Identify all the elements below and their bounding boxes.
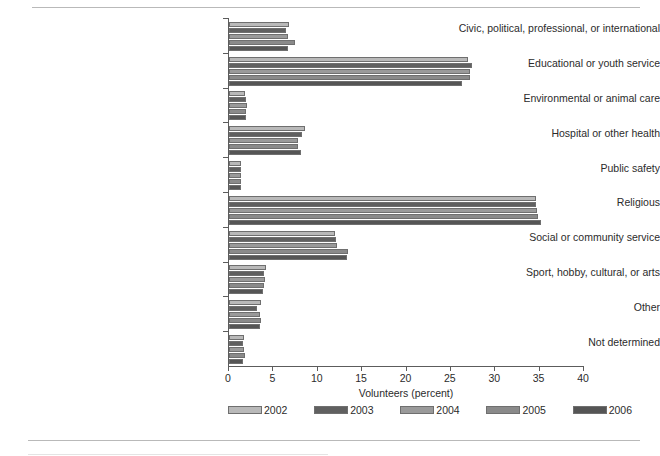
bar-2002 [229,335,244,340]
y-axis-tick [223,192,228,193]
chart-category-row: Environmental or animal care [0,88,660,123]
bar-group [229,335,245,364]
bar-2006 [229,115,246,120]
bar-2005 [229,283,264,288]
bar-2006 [229,324,260,329]
category-label: Other [442,301,660,313]
bar-group [229,91,247,120]
bar-2003 [229,341,243,346]
x-axis-tick [361,366,362,371]
y-axis-tick [223,122,228,123]
x-axis-tick [272,366,273,371]
x-axis-tick [494,366,495,371]
y-axis-tick [223,18,228,19]
bottom-divider-rule [28,440,640,441]
category-label: Civic, political, professional, or inter… [442,22,660,34]
category-label: Public safety [442,162,660,174]
bar-2004 [229,34,288,39]
y-axis-tick [223,88,228,89]
legend-item-2006[interactable]: 2006 [573,404,632,416]
bar-2003 [229,202,536,207]
category-label: Educational or youth service [442,57,660,69]
chart-category-row: Not determined [0,331,660,366]
chart-category-row: Educational or youth service [0,53,660,88]
bar-2003 [229,28,286,33]
category-label: Environmental or animal care [442,92,660,104]
bar-2002 [229,22,289,27]
legend-label: 2004 [436,404,459,416]
bar-2002 [229,57,468,62]
bar-2004 [229,173,241,178]
bar-2006 [229,289,263,294]
bar-2005 [229,40,295,45]
legend-item-2005[interactable]: 2005 [486,404,545,416]
bar-2003 [229,97,246,102]
bar-2003 [229,306,257,311]
x-axis-tick [583,366,584,371]
legend-label: 2005 [522,404,545,416]
bar-2006 [229,46,288,51]
legend-item-2003[interactable]: 2003 [314,404,373,416]
bar-2004 [229,312,260,317]
chart-category-row: Civic, political, professional, or inter… [0,18,660,53]
bar-2002 [229,126,305,131]
legend-swatch-2003 [314,406,348,414]
category-label: Hospital or other health [442,127,660,139]
bar-2002 [229,91,245,96]
bar-2005 [229,179,241,184]
bar-group [229,126,305,155]
cut-off-source-rule [28,454,328,455]
bar-group [229,22,295,51]
legend-label: 2003 [350,404,373,416]
x-axis-tick-label: 30 [474,372,514,384]
bar-2006 [229,255,347,260]
bar-2005 [229,214,538,219]
bar-2004 [229,138,298,143]
x-axis-tick-label: 25 [430,372,470,384]
bar-2003 [229,132,302,137]
bar-2003 [229,167,241,172]
bar-2003 [229,63,472,68]
y-axis-tick [223,53,228,54]
chart-category-row: Religious [0,192,660,227]
bar-2004 [229,103,247,108]
category-label: Social or community service [442,231,660,243]
bar-2006 [229,185,241,190]
bar-2003 [229,237,336,242]
legend-label: 2002 [264,404,287,416]
legend-swatch-2002 [228,406,262,414]
bar-group [229,57,472,86]
bar-2006 [229,359,243,364]
x-axis-tick-label: 35 [519,372,559,384]
legend-item-2002[interactable]: 2002 [228,404,287,416]
x-axis-tick-label: 40 [563,372,603,384]
x-axis-tick [539,366,540,371]
chart-plot-area: 0510152025303540 Civic, political, profe… [0,0,660,456]
bar-group [229,265,266,294]
bar-group [229,196,541,225]
chart-legend: 20022003200420052006 [228,404,632,416]
x-axis-tick-label: 5 [252,372,292,384]
bar-2002 [229,161,241,166]
bar-2002 [229,196,536,201]
x-axis-tick-label: 10 [297,372,337,384]
bar-2002 [229,265,266,270]
legend-swatch-2006 [573,406,607,414]
x-axis-tick [406,366,407,371]
bar-2002 [229,231,335,236]
bar-2004 [229,347,244,352]
chart-category-row: Social or community service [0,227,660,262]
x-axis-tick [317,366,318,371]
bar-2005 [229,144,298,149]
bar-2005 [229,109,246,114]
x-axis-tick [450,366,451,371]
chart-category-row: Public safety [0,157,660,192]
bar-2004 [229,69,470,74]
legend-item-2004[interactable]: 2004 [400,404,459,416]
chart-category-row: Other [0,296,660,331]
bar-2003 [229,271,264,276]
bar-2004 [229,208,537,213]
legend-label: 2006 [609,404,632,416]
bar-2002 [229,300,261,305]
bar-2006 [229,220,541,225]
